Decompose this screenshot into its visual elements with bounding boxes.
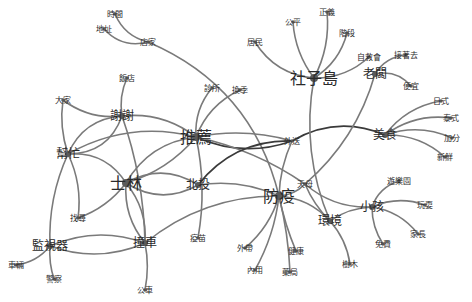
node-label: 公平 xyxy=(285,18,301,27)
graph-node: 公平 xyxy=(285,18,301,27)
graph-node: 樹木 xyxy=(342,259,358,269)
graph-node: 內用 xyxy=(247,266,263,275)
graph-node: 推薦 xyxy=(180,128,212,147)
graph-node: 撞車 xyxy=(133,235,157,250)
node-label: 士林 xyxy=(110,174,142,193)
node-label: 免費 xyxy=(375,239,391,249)
graph-node: 社子島 xyxy=(290,69,338,88)
node-label: 推薦 xyxy=(180,128,212,147)
graph-node: 監視器 xyxy=(32,238,68,253)
node-label: 地址 xyxy=(96,24,112,34)
node-label: 內用 xyxy=(247,266,263,275)
node-label: 換季 xyxy=(232,85,248,95)
node-label: 樹木 xyxy=(342,259,358,269)
node-label: 疫苗 xyxy=(190,233,206,243)
graph-node: 玩耍 xyxy=(417,201,433,210)
graph-node: 健康 xyxy=(288,246,304,256)
graph-node: 天母 xyxy=(297,180,313,189)
edge xyxy=(62,100,68,154)
node-label: 車輛 xyxy=(8,260,24,270)
graph-node: 居民 xyxy=(247,38,263,47)
graph-node: 警察 xyxy=(46,274,62,284)
node-label: 正義 xyxy=(319,7,335,17)
node-label: 大家 xyxy=(55,95,71,105)
node-label: 店家 xyxy=(140,37,156,47)
node-label: 家長 xyxy=(410,229,426,239)
graph-node: 時間 xyxy=(107,10,123,19)
node-label: 小孩 xyxy=(360,200,384,214)
node-label: 外帶 xyxy=(237,243,253,253)
node-label: 自救會 xyxy=(357,52,381,62)
graph-node: 正義 xyxy=(319,7,335,17)
graph-node: 加分 xyxy=(444,133,460,143)
graph-node: 外送 xyxy=(284,136,300,146)
graph-node: 防疫 xyxy=(263,187,295,206)
network-graph-svg: 時間地址店家飯店大家謝謝推薦診所換季社子島居民公平正義階段自救會老闆接著去便宜美… xyxy=(0,0,472,302)
graph-node: 店家 xyxy=(140,37,156,47)
node-label: 撞車 xyxy=(133,235,157,250)
graph-node: 車輛 xyxy=(8,260,24,270)
graph-node: 環境 xyxy=(318,213,342,228)
node-label: 新鮮 xyxy=(437,152,453,162)
graph-node: 泰式 xyxy=(443,113,459,123)
graph-node: 幫忙 xyxy=(56,146,80,161)
node-label: 階段 xyxy=(339,28,355,38)
node-label: 老闆 xyxy=(363,67,387,81)
graph-node: 疫苗 xyxy=(190,233,206,243)
graph-node: 免費 xyxy=(375,239,391,249)
node-label: 接著去 xyxy=(394,50,418,60)
node-label: 找尋 xyxy=(70,213,86,223)
node-label: 加分 xyxy=(444,133,460,143)
node-layer: 時間地址店家飯店大家謝謝推薦診所換季社子島居民公平正義階段自救會老闆接著去便宜美… xyxy=(8,7,460,295)
edge xyxy=(198,141,292,185)
edge xyxy=(68,154,79,218)
node-label: 環境 xyxy=(318,213,342,228)
graph-node: 階段 xyxy=(339,28,355,38)
graph-node: 飯店 xyxy=(119,73,135,83)
graph-node: 家長 xyxy=(410,229,426,239)
graph-node: 日式 xyxy=(433,96,449,106)
edge xyxy=(50,154,68,246)
node-label: 泰式 xyxy=(443,113,459,123)
graph-node: 接著去 xyxy=(394,50,418,60)
node-label: 健康 xyxy=(288,246,304,256)
graph-node: 老闆 xyxy=(363,67,387,81)
node-label: 日式 xyxy=(433,96,449,106)
edge xyxy=(292,126,385,141)
node-label: 居民 xyxy=(247,38,263,47)
graph-node: 新鮮 xyxy=(437,152,453,162)
edge xyxy=(145,243,147,290)
graph-node: 找尋 xyxy=(70,213,86,223)
edge xyxy=(145,196,279,243)
graph-node: 士林 xyxy=(110,174,142,193)
node-label: 社子島 xyxy=(290,69,338,88)
node-label: 玩耍 xyxy=(417,201,433,210)
node-label: 診所 xyxy=(204,83,220,93)
graph-node: 地址 xyxy=(96,24,112,34)
graph-node: 大家 xyxy=(55,95,71,105)
node-label: 防疫 xyxy=(263,187,295,206)
node-label: 飯店 xyxy=(119,73,135,83)
network-diagram: 時間地址店家飯店大家謝謝推薦診所換季社子島居民公平正義階段自救會老闆接著去便宜美… xyxy=(0,0,472,302)
node-label: 外送 xyxy=(284,136,300,146)
graph-node: 診所 xyxy=(204,83,220,93)
node-label: 公車 xyxy=(137,285,153,295)
node-label: 美食 xyxy=(373,127,397,142)
edge xyxy=(279,196,290,272)
graph-node: 遊樂園 xyxy=(387,176,411,186)
graph-node: 謝謝 xyxy=(110,108,134,123)
node-label: 便宜 xyxy=(403,81,419,91)
graph-node: 外帶 xyxy=(237,243,253,253)
node-label: 天母 xyxy=(297,180,313,189)
node-label: 北投 xyxy=(186,177,210,192)
graph-node: 小孩 xyxy=(360,200,384,214)
node-label: 時間 xyxy=(107,10,123,19)
graph-node: 換季 xyxy=(232,85,248,95)
node-label: 謝謝 xyxy=(110,108,134,123)
graph-node: 公車 xyxy=(137,285,153,295)
graph-node: 美食 xyxy=(373,127,397,142)
graph-node: 便宜 xyxy=(403,81,419,91)
node-label: 幫忙 xyxy=(56,146,80,161)
graph-node: 自救會 xyxy=(357,52,381,62)
graph-node: 藥局 xyxy=(282,267,298,277)
